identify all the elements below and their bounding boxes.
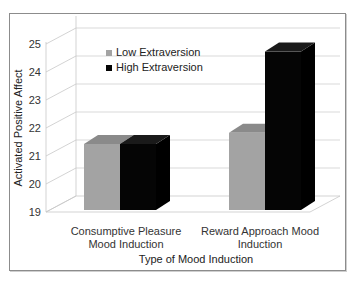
y-tick-label-24: 24 <box>29 66 41 78</box>
gridline-side-20 <box>46 168 76 184</box>
y-tick-label-19: 19 <box>29 206 41 218</box>
gridline-side-21 <box>46 140 76 156</box>
y-axis-title: Activated Positive Affect <box>12 69 24 186</box>
bar-1-1 <box>265 43 315 210</box>
y-tick-label-20: 20 <box>29 178 41 190</box>
bar-front-1-0 <box>120 144 156 210</box>
chart: 19202122232425 Low Extraversion High Ext… <box>0 0 354 281</box>
category-label-0-line-1: Mood Induction <box>88 238 163 250</box>
legend: Low Extraversion High Extraversion <box>106 46 203 73</box>
gridline-side-24 <box>46 56 76 72</box>
legend-swatch-low <box>106 50 112 56</box>
category-label-1-line-0: Reward Approach Mood <box>201 225 319 237</box>
category-label-0-line-0: Consumptive Pleasure <box>71 225 182 237</box>
bar-1-0 <box>120 135 170 210</box>
legend-swatch-high <box>106 65 112 71</box>
legend-label-low: Low Extraversion <box>116 46 200 58</box>
gridline-side-25 <box>46 28 76 44</box>
y-tick-label-22: 22 <box>29 122 41 134</box>
legend-label-high: High Extraversion <box>116 61 203 73</box>
y-tick-label-23: 23 <box>29 94 41 106</box>
bar-side-1-0 <box>156 135 170 210</box>
y-tick-label-25: 25 <box>29 38 41 50</box>
gridline-side-22 <box>46 112 76 128</box>
gridline-side-23 <box>46 84 76 100</box>
y-axis-ticks: 19202122232425 <box>29 38 41 218</box>
bar-side-1-1 <box>301 43 315 210</box>
x-axis-title: Type of Mood Induction <box>139 253 253 265</box>
bar-front-0-1 <box>229 133 265 210</box>
category-label-1-line-1: Induction <box>238 238 283 250</box>
y-tick-label-21: 21 <box>29 150 41 162</box>
bar-front-1-1 <box>265 52 301 210</box>
bar-front-0-0 <box>84 144 120 210</box>
x-axis-category-labels: Consumptive Pleasure Mood Induction Rewa… <box>71 225 319 250</box>
